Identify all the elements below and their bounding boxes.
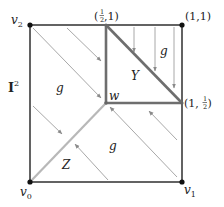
arrow-icon	[110, 107, 177, 177]
region-label-g-top-right: g	[160, 44, 168, 58]
arrow-icon	[75, 144, 108, 180]
vertex-v0-dot	[27, 179, 32, 184]
label-v2: v2	[11, 13, 23, 29]
region-label-Y: Y	[131, 69, 140, 83]
arrow-icon	[33, 28, 101, 98]
arrow-icon	[67, 28, 101, 61]
label-w: w	[109, 89, 120, 103]
region-label-g-top-left: g	[56, 81, 64, 95]
vertex-v2-dot	[27, 22, 32, 27]
arrow-icon	[149, 111, 177, 140]
label-top-right: (1,1)	[185, 10, 211, 23]
region-label-g-bottom-right: g	[109, 139, 117, 153]
label-mid-top: ( 1 2 ,1)	[94, 8, 119, 24]
unit-square-diagram: I2 v2 v0 v1 (1,1) ( 1 2 ,1) (1, 1 2 ) w …	[0, 0, 224, 207]
svg-text:(1,: (1,	[184, 97, 199, 110]
label-v1: v1	[184, 183, 196, 199]
svg-text:): )	[208, 97, 212, 110]
space-label: I2	[8, 79, 19, 95]
label-v0: v0	[20, 185, 32, 201]
region-label-Z: Z	[61, 158, 71, 172]
svg-text:(: (	[94, 10, 98, 23]
arrow-icon	[33, 106, 62, 134]
svg-text:,1): ,1)	[104, 10, 119, 23]
vertex-mid-top-dot	[104, 23, 107, 26]
vertex-w-dot	[104, 101, 108, 105]
label-mid-right: (1, 1 2 )	[184, 95, 212, 111]
vertex-top-right-dot	[179, 22, 184, 27]
